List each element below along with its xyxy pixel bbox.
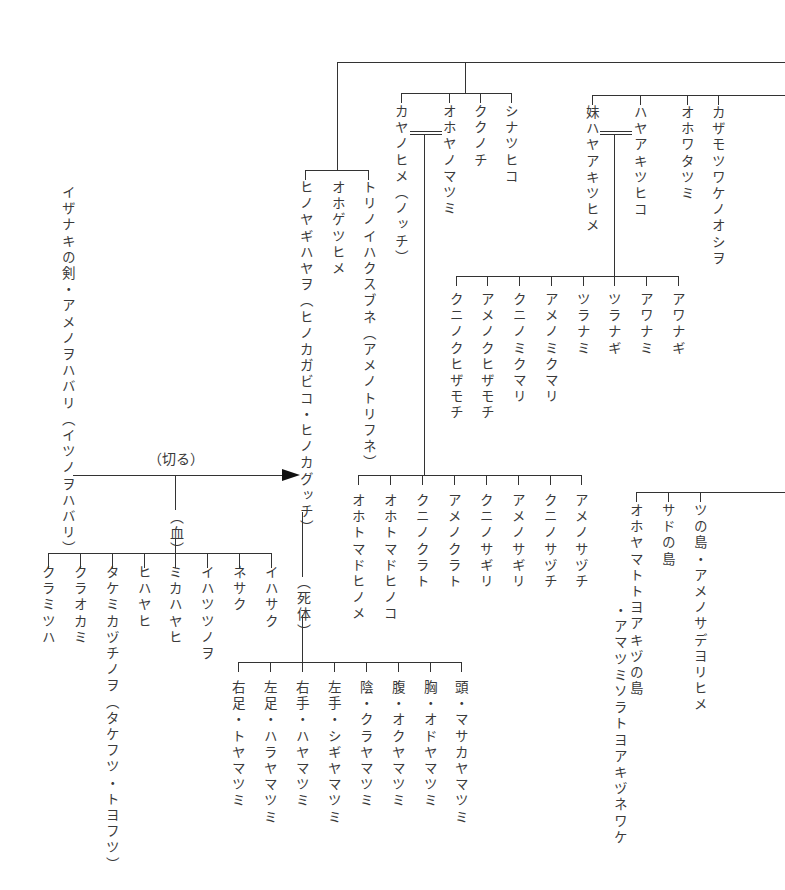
- connector: [486, 475, 487, 485]
- node-blood-child: ミカハヤヒ: [167, 565, 183, 646]
- connector: [430, 662, 431, 672]
- node-hinoyagi: ヒノヤギハヤヲ（ヒノカガビコ・ヒノカグッチ）: [298, 180, 314, 536]
- node-kaya-child: クニノクラト: [414, 493, 430, 590]
- connector: [398, 662, 399, 672]
- arrow-head-icon: [282, 469, 300, 481]
- node-kaya-child: オホトマドヒノコ: [382, 493, 398, 623]
- node-haya-child: ツラナギ: [606, 292, 622, 357]
- connector: [614, 134, 615, 276]
- connector: [646, 276, 647, 286]
- node-corpse-child: 胸・オドヤマツミ: [422, 680, 438, 810]
- node-torinoiha: トリノイハクスブネ（アメノトリフネ）: [361, 180, 377, 472]
- node-ohogetsuhime: オホゲツヒメ: [330, 180, 346, 277]
- node-blood-child: イハサク: [263, 565, 279, 630]
- connector: [302, 615, 303, 662]
- node-blood-child: クラオカミ: [72, 565, 88, 646]
- node-kaya-child: オホトマドヒノメ: [350, 493, 366, 623]
- connector: [454, 475, 455, 485]
- node-corpse-child: 頭・マサカヤマツミ: [453, 680, 469, 826]
- node-blood-child: イハツツノヲ: [199, 565, 215, 662]
- node-kaya-child: クニノサギリ: [478, 493, 494, 590]
- group-bar: [456, 276, 678, 277]
- node-hayaakitsuhime: 妹ハヤアキツヒメ: [584, 105, 600, 235]
- connector: [718, 95, 719, 105]
- node-ohowatatsumi: オホワタツミ: [679, 105, 695, 202]
- node-corpse-child: 右手・ハヤマツミ: [294, 680, 310, 810]
- node-haya-child: クニノクヒザモチ: [448, 292, 464, 422]
- connector: [700, 492, 701, 502]
- connector: [358, 475, 359, 485]
- connector: [487, 276, 488, 286]
- node-island-ohoyamato: オホヤマトトヨアキヅの島: [628, 503, 644, 697]
- node-haya-child: ツラナミ: [575, 292, 591, 357]
- top-line: [337, 62, 785, 63]
- node-blood-child: クラミツハ: [40, 565, 56, 646]
- group-bar: [358, 475, 581, 476]
- marriage-line: [600, 131, 632, 135]
- node-kaya-child: アメノクラト: [446, 493, 462, 590]
- connector: [668, 492, 669, 502]
- connector: [465, 62, 466, 93]
- group-bar: [401, 93, 512, 94]
- group-bar: [305, 170, 368, 171]
- connector: [461, 662, 462, 672]
- node-blood-child: タケミカヅチノヲ（タケフツ・トヨフツ）: [104, 565, 120, 873]
- node-sword: イザナキの剣・アメノヲハバリ（イツノヲハバリ）: [60, 185, 76, 558]
- node-corpse-child: 左手・シギヤマツミ: [326, 680, 342, 826]
- connector: [678, 276, 679, 286]
- node-haya-child: アワナミ: [638, 292, 654, 357]
- connector: [614, 276, 615, 286]
- node-kazamotsu: カザモツワケノオシヲ: [710, 105, 726, 267]
- node-island-ohoyamato-sub: ・アマツミソラトヨアキヅネワケ: [612, 603, 628, 846]
- connector: [270, 662, 271, 672]
- genealogy-diagram: ヒノヤギハヤヲ（ヒノカガビコ・ヒノカグッチ） オホゲツヒメ トリノイハクスブネ（…: [0, 0, 785, 890]
- node-kukunochi: ククノチ: [472, 104, 488, 169]
- top-line-2: [592, 95, 785, 96]
- node-corpse-child: 陰・クラヤマツミ: [358, 680, 374, 810]
- connector: [401, 93, 402, 103]
- connector: [640, 95, 641, 105]
- connector: [368, 170, 369, 180]
- connector: [334, 662, 335, 672]
- node-blood-child: ネサク: [231, 565, 247, 614]
- connector: [511, 93, 512, 103]
- connector: [424, 134, 425, 475]
- connector: [175, 538, 176, 553]
- connector: [550, 475, 551, 485]
- group-bar: [238, 662, 461, 663]
- connector: [302, 662, 303, 672]
- node-haya-child: アメノミクマリ: [543, 292, 559, 405]
- connector: [305, 170, 306, 180]
- node-kaya-child: アメノサギリ: [510, 493, 526, 590]
- node-island-sado: サドの島: [660, 503, 676, 568]
- connector: [238, 662, 239, 672]
- connector: [422, 475, 423, 485]
- connector: [456, 276, 457, 286]
- node-kaya-child: クニノサヅチ: [542, 493, 558, 590]
- connector: [583, 276, 584, 286]
- connector: [480, 93, 481, 103]
- marriage-line: [410, 131, 442, 135]
- node-kaya-child: アメノサヅチ: [573, 493, 589, 590]
- node-haya-child: アワナギ: [670, 292, 686, 357]
- node-island-tsu: ツの島・アメノサデヨリヒメ: [692, 503, 708, 714]
- node-kayanohime: カヤノヒメ（ノッチ）: [393, 104, 409, 266]
- connector: [519, 276, 520, 286]
- connector: [366, 662, 367, 672]
- connector: [551, 276, 552, 286]
- connector: [636, 492, 637, 502]
- connector: [390, 475, 391, 485]
- connector: [518, 475, 519, 485]
- cut-label: （切る）: [148, 448, 204, 468]
- node-haya-child: アメノクヒザモチ: [479, 292, 495, 422]
- connector: [687, 95, 688, 105]
- node-corpse-child: 右足・トヤマツミ: [230, 680, 246, 810]
- connector: [175, 475, 176, 510]
- node-hayaakitsuhiko: ハヤアキツヒコ: [632, 105, 648, 218]
- node-ohoyanomatsumi: オホヤノマツミ: [441, 104, 457, 217]
- node-corpse-child: 左足・ハラヤマツミ: [262, 680, 278, 826]
- node-corpse-child: 腹・オクヤマツミ: [390, 680, 406, 810]
- node-haya-child: クニノミクマリ: [511, 292, 527, 405]
- node-blood-child: ヒハヤヒ: [136, 565, 152, 630]
- group-bar: [636, 492, 785, 493]
